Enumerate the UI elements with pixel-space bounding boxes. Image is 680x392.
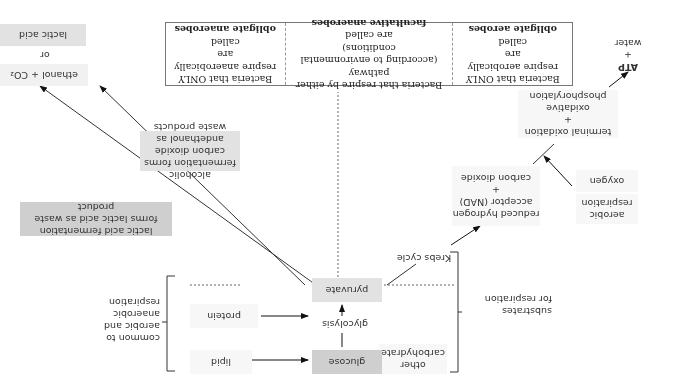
facultative-anaerobes-cell: Bacteria that respire by either pathway … (286, 23, 454, 85)
note-text: waste products (154, 121, 227, 133)
glycolysis-text: glycolysis (322, 318, 368, 330)
lactic-acid-box: lactic acid (0, 24, 86, 46)
common-label-line: respiration (90, 296, 160, 308)
substrates-label-line: substrates (462, 305, 552, 317)
aerobic-label-text: respiration (581, 197, 632, 209)
cell-text: called (211, 35, 240, 48)
common-label-line: anaerobic (90, 308, 160, 320)
cell-text: are called (345, 29, 393, 42)
aerobic-respiration-label: aerobic respiration (576, 194, 638, 224)
common-label-line: aerobic and (90, 320, 160, 332)
lipid-text: lipid (211, 356, 231, 368)
krebs-cycle-text: Krebs cycle (397, 252, 451, 264)
common-label: common to aerobic and anaerobic respirat… (90, 296, 160, 344)
obligate-aerobes-cell: Bacteria that ONLY respire aerobically a… (453, 23, 572, 85)
pyruvate-text: pyruvate (326, 284, 369, 296)
term-text: obligate anaerobes (175, 23, 276, 36)
lipid-box: lipid (190, 350, 252, 374)
plus-sign: + (624, 49, 632, 61)
protein-box: protein (190, 304, 258, 328)
water-text: water (614, 37, 641, 49)
common-label-line: common to (90, 332, 160, 344)
substrates-label: substrates for respiration (462, 293, 552, 317)
lactic-acid-text: lactic acid (19, 29, 67, 41)
cell-text: Bacteria that respire by either pathway (292, 67, 447, 92)
note-text: forms lactic acid as waste product (20, 201, 172, 225)
protein-text: protein (207, 310, 241, 322)
oxygen-text: oxygen (590, 175, 625, 187)
substrates-label-line: for respiration (462, 293, 552, 305)
krebs-product-text: acceptor (NAD) (460, 196, 533, 208)
cell-text: respire anaerobically are (172, 48, 279, 73)
cell-text: respire aerobically are (459, 48, 566, 73)
oxidation-box: terminal oxidation + oxidative phosphory… (518, 90, 618, 138)
cell-text: called (498, 35, 527, 48)
cell-text: (according to environmental conditions) (292, 42, 447, 67)
krebs-product-text: reduced hydrogen (453, 208, 540, 220)
note-text: carbon dioxide andethanol as (140, 133, 240, 157)
oxygen-box: oxygen (576, 170, 638, 192)
term-text: facultative anaerobes (312, 17, 427, 30)
pyruvate-box: pyruvate (312, 278, 382, 302)
plus-sign: + (564, 114, 572, 126)
glycolysis-label: glycolysis (312, 316, 378, 332)
oxidation-text: terminal oxidation (525, 126, 612, 138)
krebs-cycle-label: Krebs cycle (394, 250, 454, 266)
term-text: obligate aerobes (469, 23, 557, 36)
glucose-box: glucose (312, 350, 382, 374)
cell-text: Bacteria that ONLY (466, 73, 560, 86)
ethanol-co2-box: ethanol + CO₂ (0, 64, 88, 86)
atp-text: ATP (618, 61, 638, 73)
obligate-anaerobes-cell: Bacteria that ONLY respire anaerobically… (166, 23, 286, 85)
other-carbohydrate-text: carbohydrate (381, 347, 445, 359)
oxidation-text: oxidative phosphorylation (518, 90, 618, 114)
note-text: lactic acid fermentation (40, 225, 153, 237)
atp-water-box: ATP + water (604, 30, 652, 80)
other-carbohydrate-text: other (400, 359, 425, 371)
bacteria-classification-table: Bacteria that ONLY respire aerobically a… (165, 22, 573, 86)
respiration-pathway-diagram: substrates for respiration other carbohy… (0, 0, 680, 392)
krebs-products-box: reduced hydrogen acceptor (NAD) + carbon… (452, 166, 540, 226)
other-carbohydrate-box: other carbohydrate (379, 344, 447, 374)
alcoholic-fermentation-note: alcoholic fermentation forms carbon diox… (140, 131, 240, 171)
cell-text: Bacteria that ONLY (178, 73, 272, 86)
note-text: alcoholic fermentation forms (140, 157, 240, 181)
lactic-fermentation-note: lactic acid fermentation forms lactic ac… (20, 202, 172, 236)
aerobic-label-text: aerobic (589, 209, 624, 221)
krebs-product-text: carbon dioxide (461, 172, 531, 184)
plus-sign: + (492, 184, 500, 196)
ethanol-co2-text: ethanol + CO₂ (10, 69, 78, 81)
or-label: or (30, 48, 60, 62)
or-text: or (40, 49, 50, 61)
glucose-text: glucose (329, 356, 366, 368)
